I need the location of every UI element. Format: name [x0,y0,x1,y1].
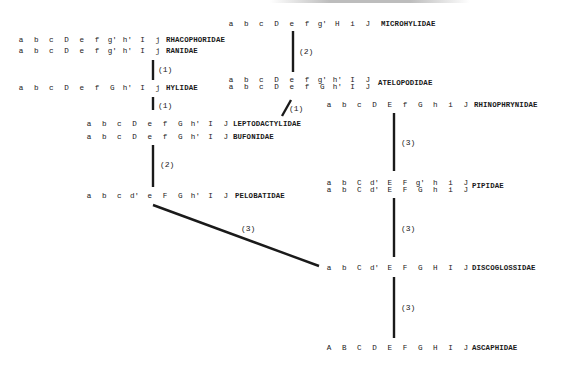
edge-step-count: (3) [401,224,415,234]
family-name-discoglossidae: DISCOGLOSSIDAE [472,264,536,273]
family-name-rhacophoridae: RHACOPHORIDAE [166,36,225,45]
family-label-row: PIPIDAE [0,182,561,191]
family-name-pelobatidae: PELOBATIDAE [235,192,285,201]
family-label-row: ASCAPHIDAE [0,344,561,353]
family-label-row: RANIDAE [0,47,561,56]
family-name-ranidae: RANIDAE [166,47,198,56]
family-name-bufonidae: BUFONIDAE [233,133,274,142]
family-label-row: DISCOGLOSSIDAE [0,264,561,273]
family-label-row: RHACOPHORIDAE [0,36,561,45]
family-label-row: LEPTODACTYLIDAE [0,120,561,129]
family-name-leptodactylidae: LEPTODACTYLIDAE [233,120,301,129]
edge-step-count: (1) [158,65,172,75]
family-name-atelopodidae: ATELOPODIDAE [378,79,432,88]
family-label-row: ATELOPODIDAE [0,79,561,88]
edge-step-count: (3) [401,138,415,148]
family-name-ascaphidae: ASCAPHIDAE [472,344,517,353]
edge-step-count: (2) [299,47,313,57]
family-name-pipidae: PIPIDAE [472,182,504,191]
edge-step-count: (3) [401,303,415,313]
family-label-row: RHINOPHRYNIDAE [0,101,561,110]
family-name-rhinophrynidae: RHINOPHRYNIDAE [474,101,538,110]
edge-step-count: (1) [158,101,172,111]
edge-step-count: (2) [160,160,174,170]
family-label-row: MICROHYLIDAE [0,20,561,29]
edge-step-count: (1) [289,104,303,114]
edge-pelobatidae-discoglossidae [153,205,319,266]
family-name-microhylidae: MICROHYLIDAE [381,20,435,29]
family-label-row: PELOBATIDAE [0,192,561,201]
edge-step-count: (3) [241,224,255,234]
family-label-row: BUFONIDAE [0,133,561,142]
